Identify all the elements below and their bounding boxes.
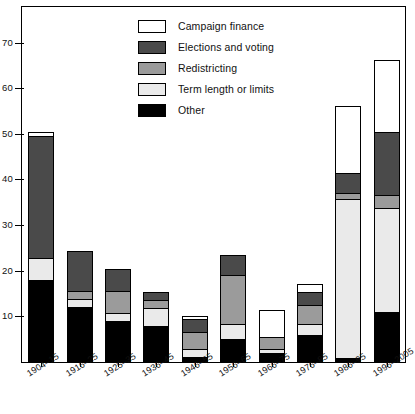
legend-swatch-icon <box>138 62 166 75</box>
legend-label: Term length or limits <box>178 84 274 95</box>
legend-swatch-icon <box>138 104 166 117</box>
bar-segment-redistricting <box>105 291 131 314</box>
legend-swatch-icon <box>138 83 166 96</box>
bar-1956-65[interactable] <box>220 255 246 362</box>
bar-segment-redistricting <box>182 332 208 350</box>
bar-1904-15[interactable] <box>28 132 54 362</box>
bar-segment-term-length-or-limits <box>143 308 169 326</box>
legend-item[interactable]: Term length or limits <box>138 79 318 100</box>
y-axis-label: 60 <box>0 83 13 93</box>
bar-1976-85[interactable] <box>297 284 323 362</box>
bar-segment-elections-and-voting <box>182 319 208 333</box>
bar-segment-elections-and-voting <box>297 292 323 306</box>
bar-segment-term-length-or-limits <box>335 199 361 360</box>
y-axis-label: 50 <box>0 129 13 139</box>
bar-segment-campaign-finance <box>259 310 285 337</box>
bar-1936-45[interactable] <box>143 292 169 362</box>
bar-segment-elections-and-voting <box>105 269 131 292</box>
bar-1916-25[interactable] <box>67 251 93 362</box>
legend-label: Elections and voting <box>178 42 274 53</box>
y-axis-label: 30 <box>0 220 13 230</box>
legend-swatch-icon <box>138 20 166 33</box>
legend-item[interactable]: Other <box>138 100 318 121</box>
bar-segment-redistricting <box>259 337 285 351</box>
bar-segment-elections-and-voting <box>67 251 93 292</box>
bar-1996-2005[interactable] <box>374 60 400 362</box>
legend-label: Campaign finance <box>178 21 264 32</box>
bar-segment-elections-and-voting <box>374 132 400 196</box>
bar-1925-35[interactable] <box>105 269 131 362</box>
legend-label: Redistricting <box>178 63 237 74</box>
bar-segment-redistricting <box>297 305 323 326</box>
bar-segment-campaign-finance <box>374 60 400 133</box>
bar-segment-elections-and-voting <box>335 173 361 194</box>
y-axis-label: 70 <box>0 38 13 48</box>
bar-segment-other <box>28 280 54 362</box>
legend-item[interactable]: Redistricting <box>138 58 318 79</box>
y-axis-label: 40 <box>0 175 13 185</box>
bar-1986-95[interactable] <box>335 106 361 362</box>
y-axis-label: 10 <box>0 312 13 322</box>
chart-legend: Campaign financeElections and votingRedi… <box>138 16 318 121</box>
bar-segment-campaign-finance <box>335 106 361 174</box>
legend-item[interactable]: Elections and voting <box>138 37 318 58</box>
bar-segment-term-length-or-limits <box>28 258 54 281</box>
bar-segment-redistricting <box>220 275 246 325</box>
legend-item[interactable]: Campaign finance <box>138 16 318 37</box>
legend-swatch-icon <box>138 41 166 54</box>
bar-segment-term-length-or-limits <box>374 208 400 313</box>
bar-segment-elections-and-voting <box>28 136 54 259</box>
bar-segment-elections-and-voting <box>220 255 246 276</box>
bar-segment-redistricting <box>374 195 400 209</box>
bar-segment-term-length-or-limits <box>220 324 246 340</box>
legend-label: Other <box>178 105 205 116</box>
y-axis-label: 20 <box>0 266 13 276</box>
